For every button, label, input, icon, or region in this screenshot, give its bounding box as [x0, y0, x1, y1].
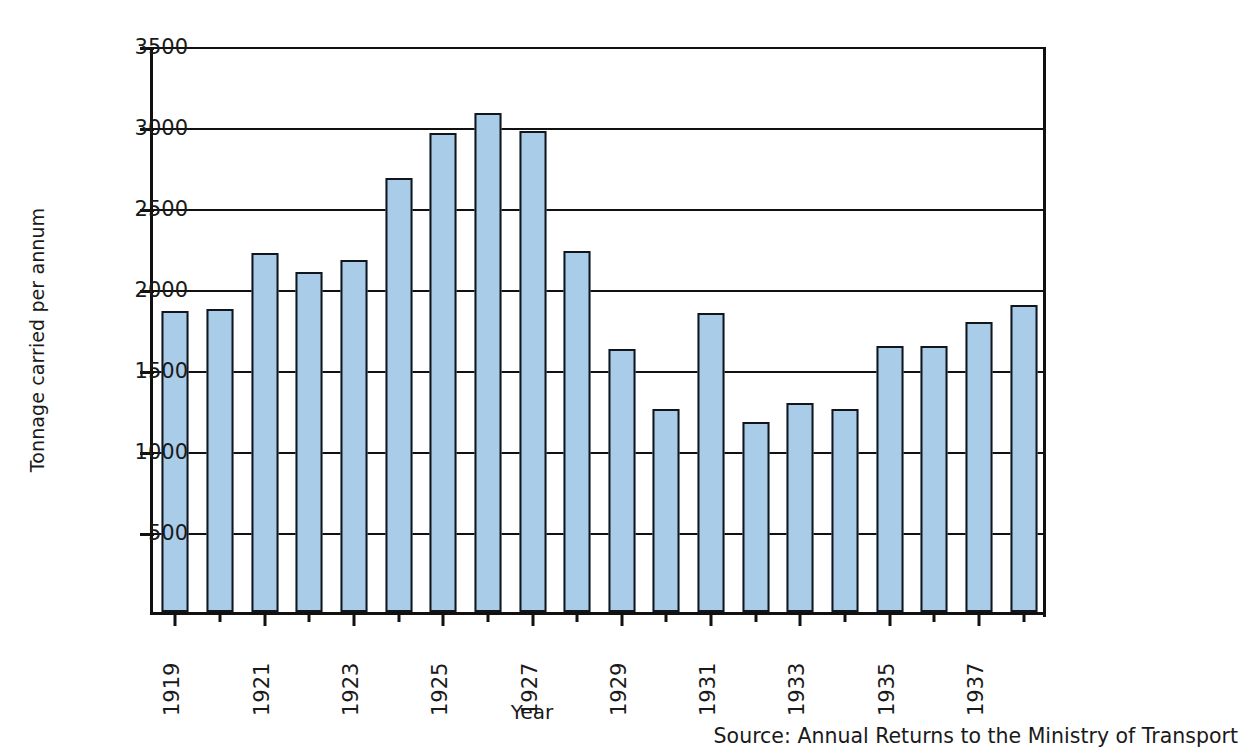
x-axis-tick: [978, 612, 981, 626]
bar-slot: [421, 45, 466, 612]
bar[interactable]: [966, 322, 993, 612]
bar[interactable]: [1010, 305, 1037, 612]
x-axis-tick: [486, 612, 489, 622]
bar-slot: [867, 45, 912, 612]
x-axis-tick: [576, 612, 579, 622]
bar-slot: [823, 45, 868, 612]
bar-slot: [376, 45, 421, 612]
source-note: Source: Annual Returns to the Ministry o…: [714, 724, 1238, 748]
x-axis-tick: [799, 612, 802, 626]
bar-slot: [1001, 45, 1046, 612]
bar[interactable]: [340, 260, 367, 612]
x-axis-tick: [888, 612, 891, 626]
bar-slot: [733, 45, 778, 612]
bar[interactable]: [519, 131, 546, 612]
x-axis-tick: [844, 612, 847, 622]
y-axis-tick-label: 2500: [98, 199, 188, 220]
x-axis-tick: [174, 612, 177, 626]
bar-slot: [912, 45, 957, 612]
x-axis-tick: [218, 612, 221, 622]
bar[interactable]: [608, 349, 635, 612]
bar-slot: [957, 45, 1002, 612]
y-axis-tick-label: 500: [98, 523, 188, 544]
y-axis-tick-label: 1500: [98, 361, 188, 382]
y-axis-tick-label: 1000: [98, 442, 188, 463]
bar-slot: [287, 45, 332, 612]
bar-slot: [332, 45, 377, 612]
bar[interactable]: [742, 422, 769, 612]
y-axis-tick-label: 3500: [98, 37, 188, 58]
x-axis-tick: [352, 612, 355, 626]
bar[interactable]: [876, 346, 903, 612]
bar[interactable]: [296, 272, 323, 612]
x-axis-tick: [531, 612, 534, 626]
y-axis-title: Tonnage carried per annum: [24, 60, 50, 620]
bar-slot: [644, 45, 689, 612]
bar-slot: [242, 45, 287, 612]
x-axis-tick: [620, 612, 623, 626]
bar-chart-figure: Tonnage carried per annum 50010001500200…: [0, 0, 1244, 751]
x-axis-tick: [308, 612, 311, 622]
bar-slot: [510, 45, 555, 612]
x-axis-tick: [665, 612, 668, 622]
bar[interactable]: [832, 409, 859, 612]
x-axis-title: Year: [0, 700, 1244, 724]
plot-area: [150, 48, 1043, 615]
bar[interactable]: [653, 409, 680, 612]
bar-slot: [198, 45, 243, 612]
x-axis-title-text: Year: [511, 700, 553, 724]
bar-slot: [555, 45, 600, 612]
y-axis-tick-label: 2000: [98, 280, 188, 301]
x-axis-tick: [397, 612, 400, 622]
bar[interactable]: [206, 309, 233, 612]
bar[interactable]: [564, 251, 591, 612]
x-axis-tick: [263, 612, 266, 626]
x-axis-tick: [933, 612, 936, 622]
bar[interactable]: [698, 313, 725, 612]
x-axis-tick: [442, 612, 445, 626]
bar-slot: [778, 45, 823, 612]
x-axis-tick: [754, 612, 757, 622]
bar[interactable]: [787, 403, 814, 612]
bar-slot: [689, 45, 734, 612]
bar[interactable]: [430, 133, 457, 612]
bar-slot: [466, 45, 511, 612]
bar[interactable]: [251, 253, 278, 612]
y-axis-tick-label: 3000: [98, 118, 188, 139]
x-axis-tick: [1022, 612, 1025, 622]
bars-group: [153, 45, 1046, 612]
bar[interactable]: [385, 178, 412, 612]
x-axis-tick: [710, 612, 713, 626]
bar[interactable]: [474, 113, 501, 612]
bar[interactable]: [921, 346, 948, 612]
bar-slot: [600, 45, 645, 612]
